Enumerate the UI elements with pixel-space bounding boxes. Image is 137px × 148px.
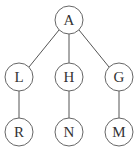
node-a: A — [55, 6, 83, 34]
node-label: N — [64, 124, 75, 140]
node-label: L — [14, 69, 23, 85]
node-g: G — [105, 63, 133, 91]
node-label: R — [14, 124, 24, 140]
edge-a-g — [79, 30, 109, 67]
node-label: M — [112, 124, 125, 140]
node-r: R — [5, 118, 33, 146]
edge-a-l — [29, 30, 59, 67]
node-h: H — [55, 63, 83, 91]
node-l: L — [5, 63, 33, 91]
node-label: A — [64, 12, 75, 28]
node-label: H — [64, 69, 75, 85]
node-label: G — [114, 69, 125, 85]
tree-diagram: A L H G R N M — [0, 0, 137, 148]
node-m: M — [105, 118, 133, 146]
node-n: N — [55, 118, 83, 146]
